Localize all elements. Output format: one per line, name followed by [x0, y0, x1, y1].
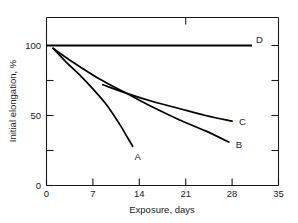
x-axis-ticks: [47, 179, 279, 186]
y-axis-title: Initial elongation, %: [7, 59, 18, 142]
plot-frame: [47, 18, 279, 186]
x-tick-labels: 0 7 14 21 28 35: [44, 188, 284, 199]
x-tick-label-0: 0: [44, 188, 49, 199]
x-tick-label-7: 7: [90, 188, 95, 199]
line-chart: 0 50 100 0 7 14 21 28 35 Exposure, days …: [0, 0, 298, 223]
series-line-b: [53, 48, 229, 142]
series-line-a: [53, 48, 133, 146]
y-tick-labels: 0 50 100: [25, 40, 41, 191]
y-axis-ticks: [47, 46, 54, 186]
x-tick-label-14: 14: [134, 188, 145, 199]
series-label-d: D: [256, 34, 263, 45]
series-label-b: B: [236, 139, 242, 150]
chart-container: 0 50 100 0 7 14 21 28 35 Exposure, days …: [0, 0, 298, 223]
y-tick-label-50: 50: [30, 110, 41, 121]
y-tick-label-100: 100: [25, 40, 41, 51]
x-tick-label-35: 35: [273, 188, 284, 199]
series-label-c: C: [239, 116, 246, 127]
x-tick-label-28: 28: [227, 188, 238, 199]
right-axis-ticks: [272, 46, 279, 151]
y-tick-label-0: 0: [36, 180, 41, 191]
series-label-a: A: [135, 151, 142, 162]
x-tick-label-21: 21: [180, 188, 191, 199]
x-axis-title: Exposure, days: [129, 204, 195, 215]
